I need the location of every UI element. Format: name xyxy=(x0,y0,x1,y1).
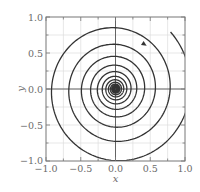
y-tick-label: 0.0 xyxy=(28,84,43,95)
x-axis-label: x xyxy=(113,173,119,184)
y-tick-label: 0.5 xyxy=(28,48,43,59)
spiral-trajectory xyxy=(51,28,190,161)
x-tick-label: −0.5 xyxy=(69,163,92,174)
y-tick-label: −0.5 xyxy=(20,120,43,131)
direction-arrow-icon xyxy=(141,41,147,46)
origin-axes-lines xyxy=(46,17,185,161)
x-tick-label: −1.0 xyxy=(34,163,57,174)
x-tick-label: 0.5 xyxy=(143,163,158,174)
x-tick-label: 1.0 xyxy=(177,163,192,174)
phase-portrait-chart: 1.0 0.5 0.0 −0.5 −1.0 −1.0 −0.5 0.0 0.5 … xyxy=(0,0,200,192)
y-axis-label: y xyxy=(15,86,26,93)
y-tick-label: 1.0 xyxy=(28,12,43,23)
